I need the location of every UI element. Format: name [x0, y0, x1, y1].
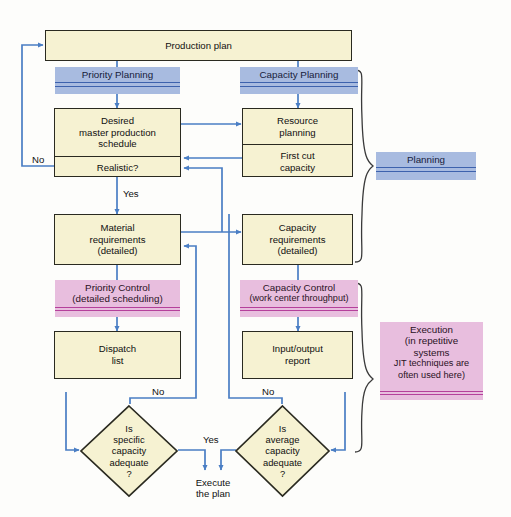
average-capacity-line-1: Is [279, 423, 286, 434]
node-capacity-requirements[interactable]: Capacity requirements (detailed) [242, 214, 353, 265]
node-priority-planning-bar[interactable]: Priority Planning [55, 67, 180, 94]
specific-capacity-line-3: capacity [112, 445, 146, 456]
planning-bracket [355, 70, 373, 262]
execute-line-2: the plan [196, 488, 230, 499]
node-desired-master-production-schedule[interactable]: Desired master production schedule Reali… [54, 108, 181, 177]
first-cut-line-2: capacity [280, 162, 315, 174]
edge-label-yes-mps: Yes [123, 188, 139, 199]
flowchart-canvas: Production plan Priority Planning Capaci… [0, 0, 511, 517]
dispatch-list-line-2: list [112, 355, 124, 367]
specific-capacity-line-4: adequate [109, 457, 148, 468]
capacity-control-rule [240, 307, 358, 311]
node-priority-control-bar[interactable]: Priority Control (detailed scheduling) [55, 280, 180, 317]
capacity-req-line-1: Capacity [279, 222, 316, 234]
node-dispatch-list[interactable]: Dispatch list [54, 331, 181, 379]
capacity-control-line-2: (work center throughput) [249, 293, 348, 304]
resource-planning-line-2: planning [279, 127, 315, 139]
specific-capacity-line-5: ? [126, 468, 131, 479]
node-capacity-planning-bar[interactable]: Capacity Planning [240, 67, 358, 94]
average-capacity-line-3: capacity [265, 445, 299, 456]
specific-capacity-line-2: specific [113, 434, 144, 445]
legend-planning: Planning [376, 152, 476, 180]
edge-label-execute-the-plan: Execute the plan [182, 477, 244, 499]
first-cut-capacity-cell: First cut capacity [243, 144, 352, 179]
edge-dispatch-to-diamond [66, 392, 79, 450]
capacity-planning-label: Capacity Planning [260, 69, 339, 80]
material-req-line-1: Material [100, 222, 134, 234]
capacity-planning-rule [240, 82, 358, 86]
mps-main-cell: Desired master production schedule [55, 109, 180, 156]
edge-label-yes-execute: Yes [203, 434, 219, 445]
legend-execution-line-3: systems [414, 347, 450, 358]
node-material-requirements[interactable]: Material requirements (detailed) [54, 214, 181, 265]
legend-execution-line-5: often used here) [398, 370, 465, 381]
node-input-output-report[interactable]: Input/output report [242, 331, 353, 379]
edge-no-specific-to-material [130, 246, 196, 404]
mps-line-2: master production [79, 127, 156, 139]
node-average-capacity-decision[interactable]: Is average capacity adequate ? [234, 404, 331, 498]
resource-planning-line-1: Resource [277, 115, 318, 127]
input-output-line-1: Input/output [272, 343, 323, 355]
edge-no-average-riser [229, 246, 282, 404]
average-capacity-text: Is average capacity adequate ? [234, 404, 331, 498]
node-production-plan[interactable]: Production plan [45, 30, 352, 61]
legend-execution-line-4: JIT techniques are [394, 358, 469, 369]
production-plan-label: Production plan [165, 40, 232, 52]
capacity-req-line-2: requirements [270, 234, 326, 246]
edge-capacityreq-to-realistic [184, 168, 222, 218]
priority-planning-label: Priority Planning [82, 69, 153, 80]
average-capacity-line-5: ? [280, 468, 285, 479]
edge-label-no-input-output: No [262, 386, 274, 397]
priority-planning-rule [55, 82, 180, 86]
dispatch-list-line-1: Dispatch [99, 343, 136, 355]
node-capacity-control-bar[interactable]: Capacity Control (work center throughput… [240, 280, 358, 317]
priority-control-line-1: Priority Control [85, 282, 150, 293]
material-req-line-2: requirements [90, 234, 146, 246]
specific-capacity-text: Is specific capacity adequate ? [79, 404, 179, 498]
capacity-control-line-1: Capacity Control [263, 282, 335, 293]
legend-planning-label: Planning [407, 154, 445, 165]
realistic-label: Realistic? [97, 162, 139, 174]
realistic-cell[interactable]: Realistic? [55, 156, 180, 179]
priority-control-line-2: (detailed scheduling) [72, 293, 162, 304]
mps-line-1: Desired [101, 115, 134, 127]
average-capacity-line-2: average [266, 434, 300, 445]
legend-execution: Execution (in repetitive systems JIT tec… [380, 322, 483, 400]
edge-yes-specific-to-execute [178, 450, 205, 470]
legend-planning-rule [376, 167, 476, 171]
edge-label-no-dispatch: No [152, 386, 164, 397]
edge-no-back-to-plan [22, 45, 54, 166]
legend-execution-line-1: Execution [410, 324, 453, 335]
execute-line-1: Execute [196, 477, 231, 488]
material-req-line-3: (detailed) [98, 245, 138, 257]
node-resource-planning[interactable]: Resource planning First cut capacity [242, 108, 353, 177]
edge-io-to-diamond [331, 392, 345, 450]
specific-capacity-line-1: Is [125, 423, 132, 434]
average-capacity-line-4: adequate [263, 457, 302, 468]
edge-label-no-mps: No [32, 154, 44, 165]
resource-planning-cell: Resource planning [243, 109, 352, 144]
input-output-line-2: report [285, 355, 310, 367]
legend-execution-line-2: (in repetitive [405, 335, 458, 346]
mps-line-3: schedule [98, 138, 136, 150]
priority-control-rule [55, 307, 180, 311]
node-specific-capacity-decision[interactable]: Is specific capacity adequate ? [79, 404, 179, 498]
first-cut-line-1: First cut [280, 150, 314, 162]
capacity-req-line-3: (detailed) [278, 245, 318, 257]
legend-execution-rule [380, 391, 483, 395]
